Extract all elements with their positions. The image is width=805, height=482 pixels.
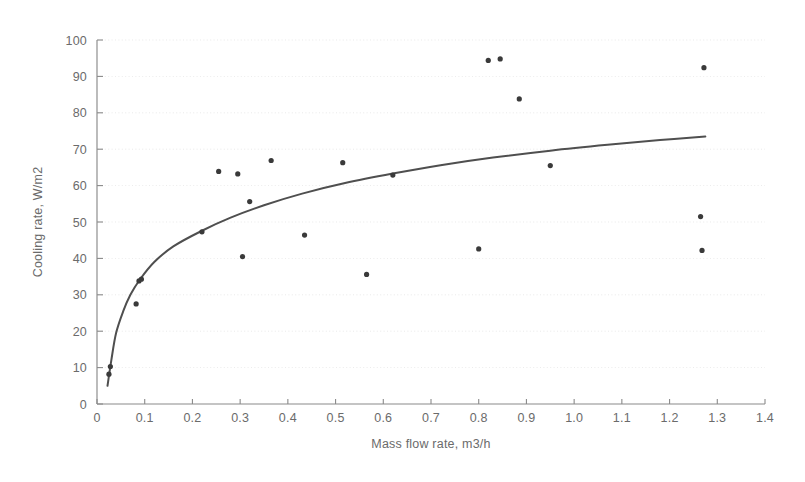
x-tick-label: 0.5 <box>327 411 345 425</box>
x-tick-label: 0.4 <box>279 411 297 425</box>
y-tick-label: 80 <box>73 106 87 120</box>
data-point <box>517 96 522 101</box>
x-tick-label: 0.3 <box>231 411 249 425</box>
y-tick-label: 70 <box>73 143 87 157</box>
y-tick-label: 0 <box>80 398 87 412</box>
x-tick-label: 0.7 <box>422 411 440 425</box>
x-tick-label: 1.1 <box>613 411 631 425</box>
data-point <box>235 171 240 176</box>
x-tick-label: 0.6 <box>374 411 392 425</box>
y-tick-label: 30 <box>73 288 87 302</box>
y-tick-label: 60 <box>73 179 87 193</box>
chart-canvas: 00.10.20.30.40.50.60.70.80.91.01.11.21.3… <box>0 0 805 482</box>
data-point <box>247 199 252 204</box>
data-point <box>698 214 703 219</box>
data-point <box>216 169 221 174</box>
data-point <box>106 372 111 377</box>
data-point <box>139 277 144 282</box>
data-point <box>486 58 491 63</box>
x-tick-label: 0.1 <box>136 411 154 425</box>
x-tick-label: 0 <box>93 411 100 425</box>
chart-background <box>0 0 805 482</box>
x-tick-label: 0.8 <box>470 411 488 425</box>
data-point <box>199 229 204 234</box>
data-point <box>240 254 245 259</box>
x-tick-label: 1.2 <box>661 411 679 425</box>
data-point <box>548 163 553 168</box>
y-tick-label: 40 <box>73 252 87 266</box>
data-point <box>701 65 706 70</box>
x-tick-label: 1.3 <box>708 411 726 425</box>
y-tick-label: 100 <box>66 34 87 48</box>
y-axis-label: Cooling rate, W/m2 <box>31 167 45 278</box>
y-tick-label: 50 <box>73 216 87 230</box>
x-tick-label: 0.9 <box>517 411 535 425</box>
y-tick-label: 10 <box>73 361 87 375</box>
data-point <box>340 160 345 165</box>
data-point <box>476 246 481 251</box>
x-tick-label: 0.2 <box>183 411 201 425</box>
x-tick-label: 1.0 <box>565 411 583 425</box>
data-point <box>108 364 113 369</box>
data-point <box>699 248 704 253</box>
x-axis-label: Mass flow rate, m3/h <box>371 437 490 451</box>
x-tick-label: 1.4 <box>756 411 774 425</box>
y-tick-label: 20 <box>73 325 87 339</box>
data-point <box>134 301 139 306</box>
y-tick-label: 90 <box>73 70 87 84</box>
data-point <box>498 56 503 61</box>
scatter-chart-figure: 00.10.20.30.40.50.60.70.80.91.01.11.21.3… <box>0 0 805 482</box>
data-point <box>390 172 395 177</box>
data-point <box>364 272 369 277</box>
data-point <box>302 233 307 238</box>
data-point <box>269 158 274 163</box>
